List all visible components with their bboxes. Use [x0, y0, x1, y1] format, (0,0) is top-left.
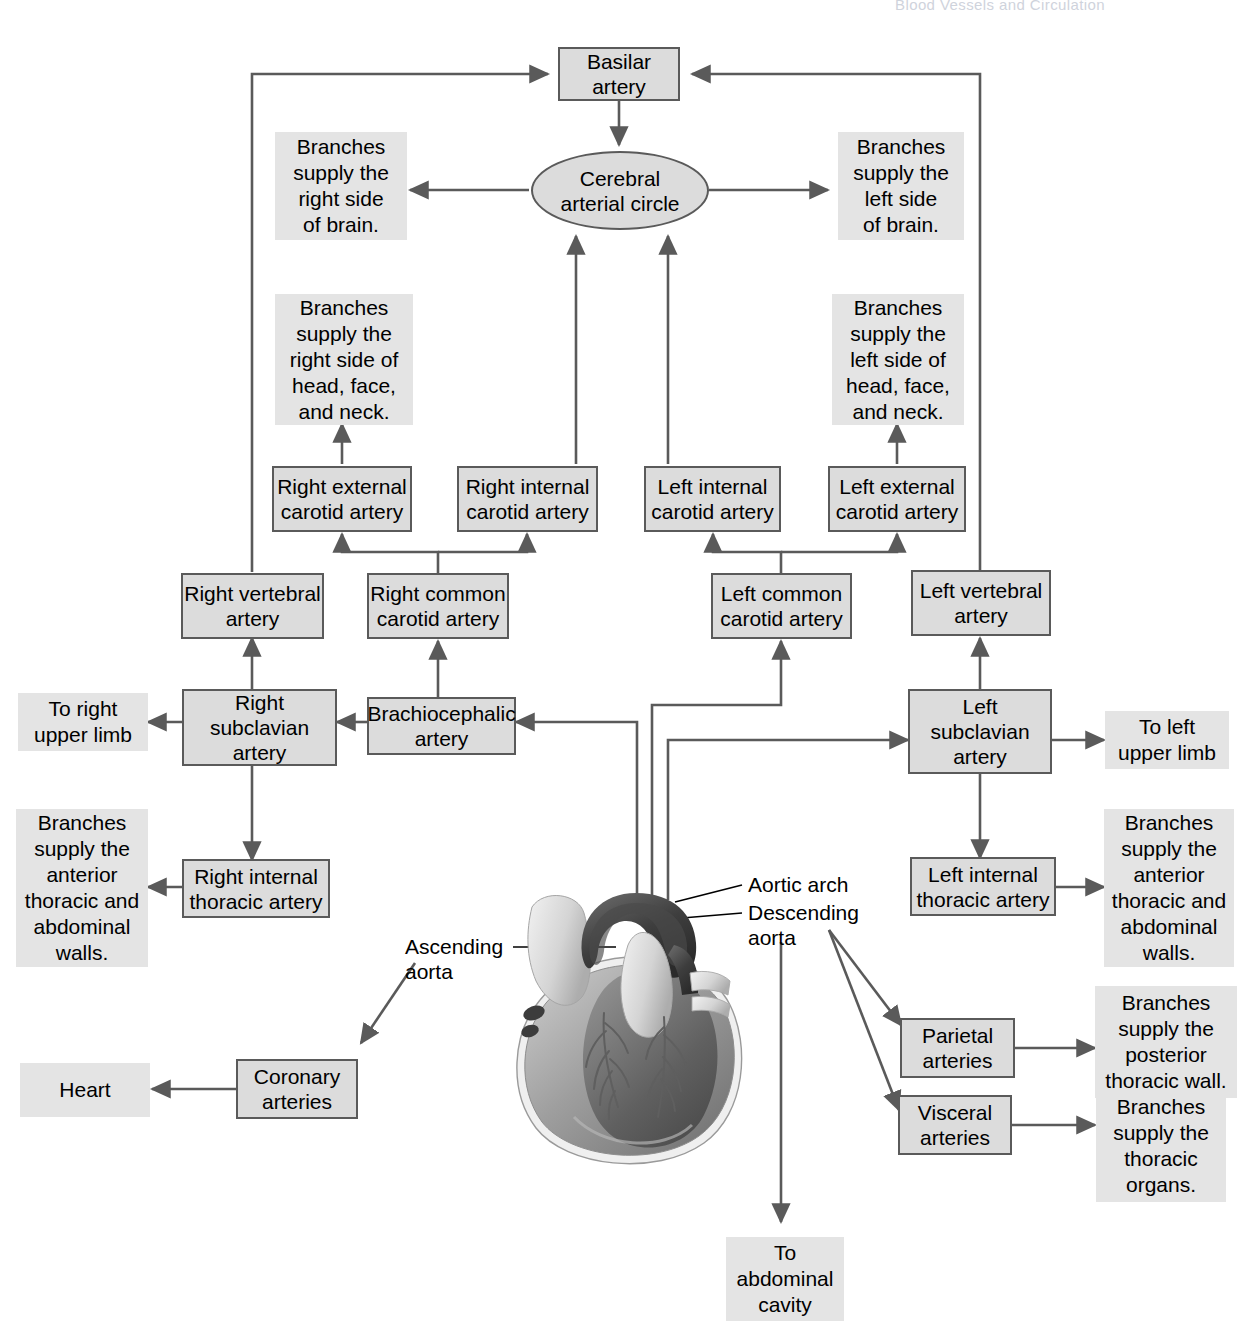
- link-aorta-to-brachiocephalic: [516, 722, 637, 900]
- link-right-common-to-external: [342, 534, 438, 575]
- node-right-vertebral-artery[interactable]: Right vertebral artery: [181, 573, 324, 639]
- node-left-subclavian-artery[interactable]: Left subclavian artery: [908, 689, 1052, 774]
- node-basilar-artery[interactable]: Basilar artery: [558, 47, 680, 101]
- node-label: Left external carotid artery: [836, 474, 959, 524]
- link-left-common-to-internal: [713, 534, 781, 575]
- annotation-text: Branches supply the right side of brain.: [293, 134, 389, 238]
- node-right-internal-thoracic-artery[interactable]: Right internal thoracic artery: [182, 859, 330, 918]
- node-label: Left internal carotid artery: [651, 474, 774, 524]
- node-left-external-carotid-artery[interactable]: Left external carotid artery: [828, 466, 966, 532]
- annotation-to-abdominal-cavity: To abdominal cavity: [726, 1237, 844, 1321]
- node-label: Right vertebral artery: [184, 581, 321, 631]
- annotation-text: To right upper limb: [34, 696, 132, 748]
- link-aorta-to-left-common-carotid: [652, 641, 781, 900]
- running-head: Blood Vessels and Circulation: [895, 0, 1105, 13]
- annotation-text: Branches supply the left side of head, f…: [846, 295, 950, 425]
- annotation-to-left-upper-limb: To left upper limb: [1105, 711, 1229, 769]
- link-right-common-to-internal: [438, 534, 527, 552]
- link-descending-to-visceral: [829, 930, 899, 1110]
- node-right-common-carotid-artery[interactable]: Right common carotid artery: [367, 573, 509, 639]
- annotation-left-anterior-thoracic-abdominal: Branches supply the anterior thoracic an…: [1104, 809, 1234, 967]
- node-left-vertebral-artery[interactable]: Left vertebral artery: [911, 570, 1051, 636]
- annotation-right-head-face-neck: Branches supply the right side of head, …: [275, 294, 413, 425]
- diagram-canvas: Blood Vessels and Circulation: [0, 0, 1247, 1328]
- node-label: Right external carotid artery: [277, 474, 407, 524]
- annotation-heart: Heart: [20, 1063, 150, 1117]
- node-label: Basilar artery: [587, 49, 651, 99]
- callout-ascending-aorta: Ascending aorta: [405, 934, 503, 984]
- annotation-posterior-thoracic-wall: Branches supply the posterior thoracic w…: [1095, 986, 1237, 1098]
- node-parietal-arteries[interactable]: Parietal arteries: [900, 1018, 1015, 1078]
- annotation-text: Branches supply the anterior thoracic an…: [1112, 810, 1226, 966]
- node-left-internal-carotid-artery[interactable]: Left internal carotid artery: [644, 466, 781, 532]
- node-label: Visceral arteries: [918, 1100, 992, 1150]
- node-label: Right internal thoracic artery: [189, 864, 322, 914]
- annotation-thoracic-organs: Branches supply the thoracic organs.: [1096, 1090, 1226, 1202]
- annotation-text: Heart: [59, 1077, 110, 1103]
- callout-descending-aorta: Descending aorta: [748, 900, 859, 950]
- link-left-common-to-external: [781, 534, 897, 552]
- node-cerebral-arterial-circle[interactable]: Cerebral arterial circle: [531, 151, 709, 230]
- annotation-text: Branches supply the left side of brain.: [853, 134, 949, 238]
- annotation-right-brain: Branches supply the right side of brain.: [275, 132, 407, 240]
- node-brachiocephalic-artery[interactable]: Brachiocephalic artery: [367, 697, 516, 755]
- node-left-internal-thoracic-artery[interactable]: Left internal thoracic artery: [910, 857, 1056, 916]
- node-label: Cerebral arterial circle: [560, 166, 679, 216]
- node-label: Left common carotid artery: [720, 581, 843, 631]
- heart-illustration: [478, 885, 778, 1175]
- annotation-right-anterior-thoracic-abdominal: Branches supply the anterior thoracic an…: [16, 809, 148, 967]
- node-visceral-arteries[interactable]: Visceral arteries: [898, 1095, 1012, 1155]
- annotation-text: Branches supply the right side of head, …: [290, 295, 399, 425]
- node-right-internal-carotid-artery[interactable]: Right internal carotid artery: [457, 466, 598, 532]
- node-left-common-carotid-artery[interactable]: Left common carotid artery: [711, 573, 852, 639]
- annotation-text: Branches supply the thoracic organs.: [1113, 1094, 1209, 1198]
- node-label: Parietal arteries: [922, 1023, 993, 1073]
- annotation-left-brain: Branches supply the left side of brain.: [838, 132, 964, 240]
- node-label: Left vertebral artery: [920, 578, 1043, 628]
- annotation-text: To left upper limb: [1118, 714, 1216, 766]
- node-label: Right common carotid artery: [370, 581, 505, 631]
- annotation-text: Branches supply the posterior thoracic w…: [1105, 990, 1226, 1094]
- node-right-external-carotid-artery[interactable]: Right external carotid artery: [272, 466, 412, 532]
- node-coronary-arteries[interactable]: Coronary arteries: [236, 1059, 358, 1119]
- annotation-to-right-upper-limb: To right upper limb: [18, 693, 148, 751]
- annotation-text: Branches supply the anterior thoracic an…: [25, 810, 139, 966]
- node-label: Coronary arteries: [254, 1064, 340, 1114]
- node-label: Left internal thoracic artery: [916, 862, 1049, 912]
- node-right-subclavian-artery[interactable]: Right subclavian artery: [182, 689, 337, 766]
- callout-aortic-arch: Aortic arch: [748, 872, 848, 897]
- node-label: Right subclavian artery: [210, 690, 309, 765]
- node-label: Right internal carotid artery: [466, 474, 590, 524]
- node-label: Brachiocephalic artery: [367, 701, 515, 751]
- node-label: Left subclavian artery: [930, 694, 1029, 769]
- annotation-text: To abdominal cavity: [737, 1240, 834, 1318]
- annotation-left-head-face-neck: Branches supply the left side of head, f…: [832, 294, 964, 425]
